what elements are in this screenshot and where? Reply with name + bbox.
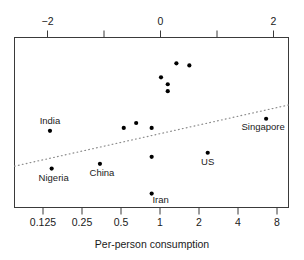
top-tick-label-zero: 0 — [158, 15, 164, 27]
data-point — [187, 63, 191, 67]
data-points-layer — [48, 61, 268, 195]
data-point-china — [98, 162, 102, 166]
point-label-india: India — [40, 115, 61, 126]
bottom-tick-label-2: 0.5 — [114, 216, 129, 228]
data-point — [150, 155, 154, 159]
data-point — [134, 121, 138, 125]
point-label-iran: Iran — [152, 194, 168, 205]
data-point-us — [206, 151, 210, 155]
top-tick-label-two: 2 — [271, 15, 277, 27]
point-label-china: China — [90, 167, 116, 178]
data-point-nigeria — [50, 166, 54, 170]
bottom-tick-label-1: 0.25 — [72, 216, 93, 228]
bottom-tick-label-4: 2 — [196, 216, 202, 228]
bottom-tick-label-6: 8 — [274, 216, 280, 228]
top-axis-ticks — [48, 31, 274, 38]
top-tick-label-minus2: −2 — [42, 15, 54, 27]
data-point-india — [48, 129, 52, 133]
data-point — [166, 89, 170, 93]
data-point — [174, 61, 178, 65]
point-labels-layer: IndiaNigeriaChinaIranUSSingapore — [39, 115, 285, 205]
data-point — [150, 126, 154, 130]
data-point — [122, 126, 126, 130]
bottom-axis-ticks — [43, 208, 277, 215]
chart-container: −2 0 2 0.125 0.25 0.5 1 2 4 8 Per-person… — [0, 0, 304, 260]
data-point — [166, 82, 170, 86]
scatter-plot: −2 0 2 0.125 0.25 0.5 1 2 4 8 Per-person… — [0, 0, 304, 260]
bottom-tick-label-0: 0.125 — [30, 216, 56, 228]
x-axis-title: Per-person consumption — [95, 238, 210, 250]
data-point — [159, 75, 163, 79]
point-label-us: US — [201, 156, 214, 167]
bottom-tick-label-5: 4 — [235, 216, 241, 228]
point-label-nigeria: Nigeria — [39, 172, 70, 183]
bottom-tick-label-3: 1 — [157, 216, 163, 228]
point-label-singapore: Singapore — [241, 121, 284, 132]
